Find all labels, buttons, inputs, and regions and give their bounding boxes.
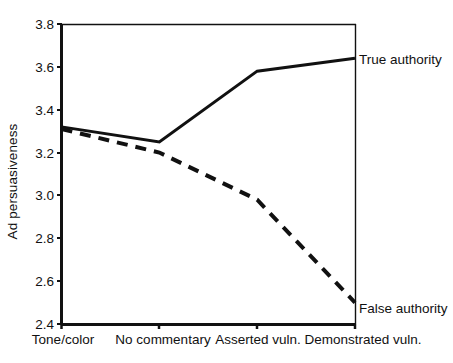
- series-label-true-authority: True authority: [359, 52, 442, 67]
- x-axis-tick-labels: Tone/color No commentary Asserted vuln. …: [0, 332, 453, 352]
- x-tick-label: No commentary: [115, 332, 210, 347]
- chart-figure: Ad persuasiveness 3.8 3.6 3.4 3.2 3.0 2.…: [0, 0, 453, 363]
- series-line-true-authority: [62, 58, 356, 142]
- x-tick-label: Tone/color: [32, 332, 94, 347]
- series-label-false-authority: False authority: [359, 301, 448, 316]
- x-tick-label: Demonstrated vuln.: [304, 332, 421, 347]
- series-line-false-authority: [62, 129, 356, 303]
- x-tick-label: Asserted vuln.: [215, 332, 301, 347]
